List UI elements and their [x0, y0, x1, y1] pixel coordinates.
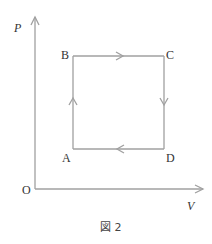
pv-diagram: P V O B C A D 図 2: [0, 0, 212, 244]
y-axis-label: P: [13, 21, 22, 35]
point-label-d: D: [166, 151, 175, 165]
origin-label: O: [22, 183, 31, 197]
point-label-a: A: [62, 151, 71, 165]
point-label-c: C: [166, 48, 174, 62]
axes: [31, 17, 203, 193]
point-label-b: B: [61, 48, 69, 62]
figure-caption: 図 2: [100, 221, 122, 234]
cycle-path: [69, 52, 168, 153]
x-axis-label: V: [187, 199, 196, 213]
